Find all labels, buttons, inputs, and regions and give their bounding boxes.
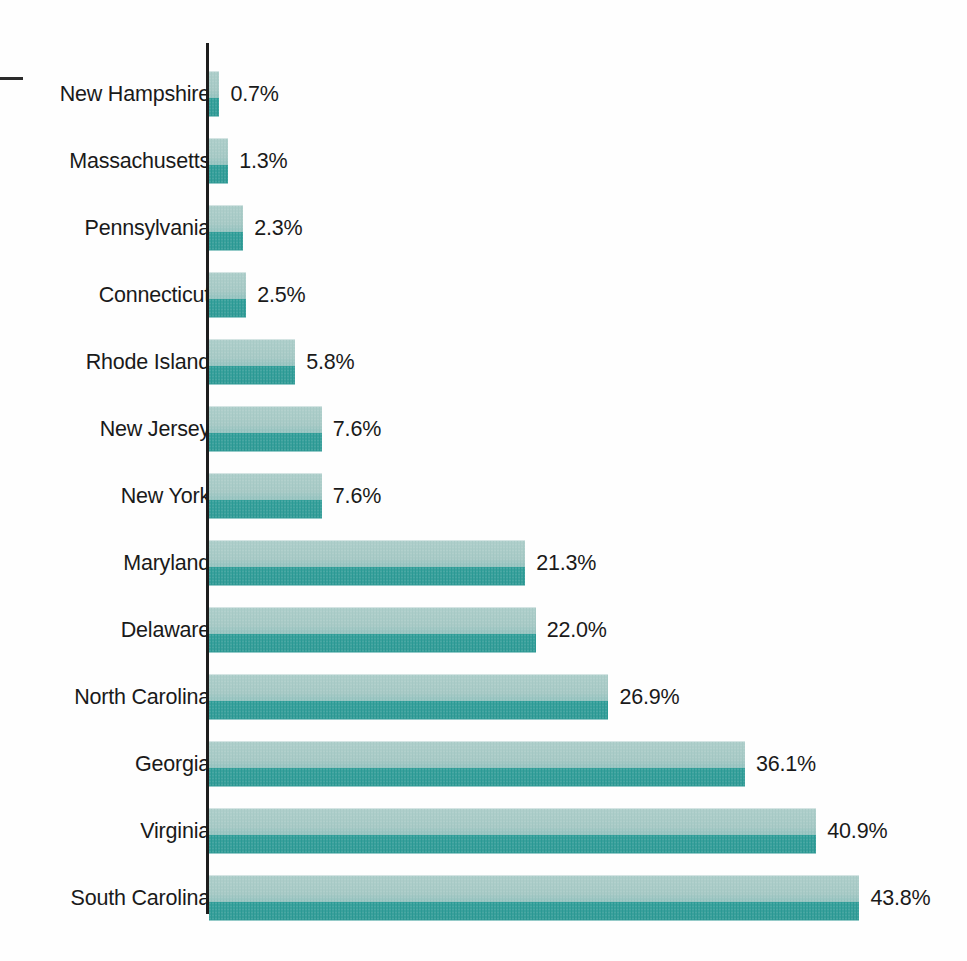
category-label: Connecticut — [99, 282, 210, 307]
bar-group: 43.8% — [209, 875, 930, 920]
bar — [209, 808, 816, 853]
category-label: New Hampshire — [60, 81, 210, 106]
bar-row: New Jersey7.6% — [0, 395, 967, 462]
bar-row: Virginia40.9% — [0, 797, 967, 864]
bar-value-label: 5.8% — [306, 349, 354, 374]
bar-row: South Carolina43.8% — [0, 864, 967, 931]
bar-group: 26.9% — [209, 674, 679, 719]
bar-value-label: 21.3% — [536, 550, 596, 575]
bar — [209, 473, 322, 518]
bar — [209, 741, 745, 786]
bar-value-label: 36.1% — [756, 751, 816, 776]
bar-value-label: 40.9% — [827, 818, 887, 843]
bar-group: 7.6% — [209, 406, 381, 451]
bar-group: 0.7% — [209, 71, 279, 116]
bar-value-label: 22.0% — [547, 617, 607, 642]
bar-value-label: 43.8% — [870, 885, 930, 910]
bar-value-label: 7.6% — [333, 416, 381, 441]
bar — [209, 607, 536, 652]
category-label: Maryland — [123, 550, 210, 575]
plot-area: New Hampshire0.7%Massachusetts1.3%Pennsy… — [0, 52, 967, 912]
bar-value-label: 7.6% — [333, 483, 381, 508]
bar — [209, 540, 525, 585]
category-label: Delaware — [121, 617, 210, 642]
category-label: South Carolina — [71, 885, 210, 910]
bar-value-label: 0.7% — [230, 81, 278, 106]
bar-row: Massachusetts1.3% — [0, 127, 967, 194]
category-label: Virginia — [140, 818, 210, 843]
category-label: Georgia — [135, 751, 210, 776]
bar-group: 2.3% — [209, 205, 302, 250]
category-label: North Carolina — [74, 684, 210, 709]
bar-row: Georgia36.1% — [0, 730, 967, 797]
bar — [209, 272, 246, 317]
bar-group: 7.6% — [209, 473, 381, 518]
category-label: Pennsylvania — [85, 215, 211, 240]
bar — [209, 875, 859, 920]
category-label: Massachusetts — [69, 148, 210, 173]
bar — [209, 674, 608, 719]
bar-row: Connecticut2.5% — [0, 261, 967, 328]
bar-row: Delaware22.0% — [0, 596, 967, 663]
bar-row: New York7.6% — [0, 462, 967, 529]
category-label: New Jersey — [100, 416, 210, 441]
bar — [209, 138, 228, 183]
bar — [209, 339, 295, 384]
bar-value-label: 26.9% — [619, 684, 679, 709]
bar — [209, 71, 219, 116]
category-label: Rhode Island — [86, 349, 210, 374]
bar-group: 5.8% — [209, 339, 354, 384]
bar — [209, 205, 243, 250]
bar-row: New Hampshire0.7% — [0, 60, 967, 127]
bar-group: 22.0% — [209, 607, 607, 652]
bar — [209, 406, 322, 451]
bar-value-label: 2.3% — [254, 215, 302, 240]
bar-row: North Carolina26.9% — [0, 663, 967, 730]
bar-group: 21.3% — [209, 540, 596, 585]
bar-group: 1.3% — [209, 138, 288, 183]
bar-group: 40.9% — [209, 808, 887, 853]
bar-group: 36.1% — [209, 741, 816, 786]
category-label: New York — [121, 483, 210, 508]
bar-value-label: 1.3% — [239, 148, 287, 173]
bar-row: Rhode Island5.8% — [0, 328, 967, 395]
bar-group: 2.5% — [209, 272, 305, 317]
bar-value-label: 2.5% — [257, 282, 305, 307]
bar-chart: New Hampshire0.7%Massachusetts1.3%Pennsy… — [0, 0, 967, 961]
bar-row: Pennsylvania2.3% — [0, 194, 967, 261]
bar-row: Maryland21.3% — [0, 529, 967, 596]
